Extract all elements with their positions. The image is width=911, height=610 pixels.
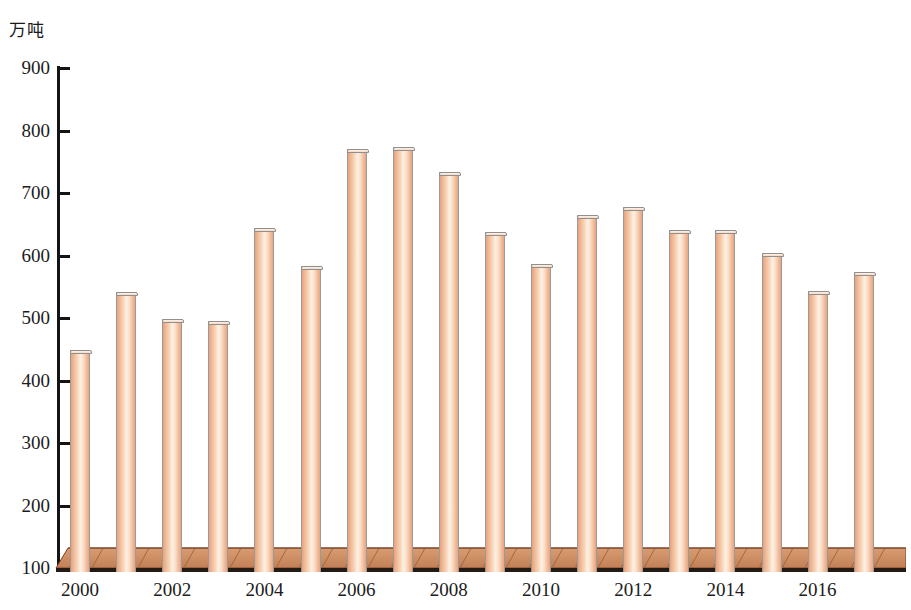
bar-2017 <box>854 272 874 572</box>
bar-cap <box>439 172 461 176</box>
x-axis-tick-label: 2010 <box>501 580 581 599</box>
x-axis-tick-label: 2012 <box>593 580 673 599</box>
bar-2004 <box>254 228 274 572</box>
bar-2012 <box>623 207 643 572</box>
bar-2002 <box>162 319 182 572</box>
bar-cap <box>116 292 138 296</box>
x-axis-tick-label: 2016 <box>778 580 858 599</box>
bar-cap <box>301 266 323 270</box>
bar-2003 <box>208 321 228 572</box>
bar-2006 <box>347 149 367 572</box>
bar-cap <box>808 291 830 295</box>
bar-cap <box>531 264 553 268</box>
bar-cap <box>347 149 369 153</box>
bars-layer <box>0 0 911 610</box>
bar-2010 <box>531 264 551 572</box>
bar-cap <box>577 215 599 219</box>
bar-cap <box>854 272 876 276</box>
bar-2014 <box>715 230 735 572</box>
bar-2015 <box>762 253 782 572</box>
bar-cap <box>485 232 507 236</box>
bar-2007 <box>393 147 413 572</box>
bar-2000 <box>70 350 90 572</box>
bar-cap <box>623 207 645 211</box>
bar-2016 <box>808 291 828 573</box>
bar-cap <box>393 147 415 151</box>
x-axis-tick-label: 2014 <box>685 580 765 599</box>
bar-cap <box>208 321 230 325</box>
bar-cap <box>762 253 784 257</box>
bar-cap <box>70 350 92 354</box>
x-axis-tick-label: 2000 <box>40 580 120 599</box>
bar-cap <box>715 230 737 234</box>
bar-2005 <box>301 266 321 572</box>
bar-chart: 万吨 100200300400500600700800900 <box>0 0 911 610</box>
x-axis-tick-label: 2008 <box>409 580 489 599</box>
bar-2008 <box>439 172 459 572</box>
bar-cap <box>669 230 691 234</box>
bar-cap <box>254 228 276 232</box>
bar-2011 <box>577 215 597 572</box>
bar-2013 <box>669 230 689 572</box>
x-axis-tick-label: 2006 <box>317 580 397 599</box>
x-axis-tick-label: 2004 <box>224 580 304 599</box>
bar-2001 <box>116 292 136 572</box>
x-axis-tick-label: 2002 <box>132 580 212 599</box>
bar-2009 <box>485 232 505 572</box>
x-axis-tick-labels: 200020022004200620082010201220142016 <box>0 580 911 610</box>
bar-cap <box>162 319 184 323</box>
